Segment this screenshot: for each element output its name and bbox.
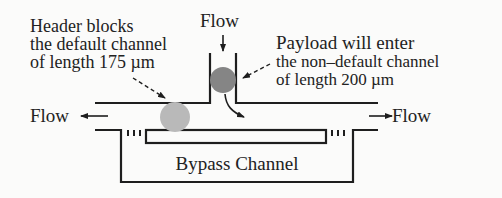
header-droplet	[160, 102, 190, 132]
payload-note-line-1: Payload will enter	[276, 32, 415, 53]
header-note-line-1: Header blocks	[30, 16, 133, 36]
header-callout-arrow-icon	[133, 78, 165, 98]
payload-note-line-3: of length 200 µm	[276, 70, 394, 89]
flow-label-top: Flow	[200, 10, 239, 31]
header-note-line-3: of length 175 µm	[30, 52, 155, 72]
gap-ticks-left	[128, 130, 140, 136]
payload-path-arrow-icon	[225, 94, 244, 117]
payload-droplet	[210, 67, 236, 93]
payload-callout-arrow-icon	[243, 64, 270, 78]
bypass-channel-label: Bypass Channel	[176, 153, 299, 174]
gap-ticks-right	[332, 130, 344, 136]
payload-note-line-2: the non–default channel	[276, 52, 440, 71]
flow-label-left: Flow	[30, 105, 69, 126]
channel-diagram: Flow Flow Flow Header blocks the default…	[0, 0, 502, 198]
flow-label-right: Flow	[392, 105, 431, 126]
bypass-divider-bar	[146, 130, 326, 143]
header-note-line-2: the default channel	[30, 34, 167, 54]
